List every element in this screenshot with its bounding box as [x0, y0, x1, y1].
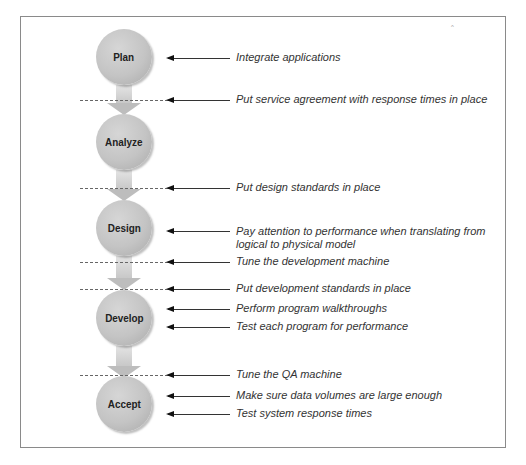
milestone-line — [80, 262, 168, 263]
pointer-arrow-icon — [168, 327, 230, 328]
phase-label: Accept — [107, 398, 140, 410]
pointer-arrow-icon — [168, 414, 230, 415]
pointer-arrow-icon — [168, 231, 230, 232]
annotation-label: Make sure data volumes are large enough — [236, 389, 442, 402]
annotation-label: Put development standards in place — [236, 282, 411, 295]
milestone-line — [80, 100, 168, 101]
pointer-arrow-icon — [168, 58, 230, 59]
phase-accept: Accept — [96, 376, 152, 432]
annotation-label: Put design standards in place — [236, 181, 380, 194]
annotation-label: Perform program walkthroughs — [236, 302, 387, 315]
pointer-arrow-icon — [168, 188, 230, 189]
phase-label: Plan — [114, 51, 135, 63]
pointer-arrow-icon — [168, 309, 230, 310]
flow-arrow-shaft — [116, 346, 132, 366]
phase-analyze: Analyze — [96, 114, 152, 170]
annotation-label: Put service agreement with response time… — [236, 93, 487, 106]
pointer-arrow-icon — [168, 262, 230, 263]
phase-label: Analyze — [105, 136, 142, 148]
phase-label: Develop — [105, 312, 144, 324]
annotation-label: Test system response times — [236, 407, 372, 420]
annotation-label-cont: logical to physical model — [236, 238, 355, 251]
pointer-arrow-icon — [168, 100, 230, 101]
annotation-label: Tune the QA machine — [236, 368, 342, 381]
phase-develop: Develop — [96, 290, 152, 346]
pointer-arrow-icon — [168, 375, 230, 376]
pointer-arrow-icon — [168, 396, 230, 397]
annotation-label: Test each program for performance — [236, 320, 408, 333]
pointer-arrow-icon — [168, 289, 230, 290]
phase-label: Design — [107, 222, 140, 234]
flow-arrow-shaft — [116, 256, 132, 278]
annotation-label: Pay attention to performance when transl… — [236, 225, 485, 238]
milestone-line — [80, 188, 168, 189]
phase-design: Design — [96, 200, 152, 256]
annotation-label: Integrate applications — [236, 51, 341, 64]
corner-mark: ^ — [451, 24, 454, 30]
flow-arrow-shaft — [116, 170, 132, 189]
phase-plan: Plan — [96, 29, 152, 85]
annotation-label: Tune the development machine — [236, 255, 389, 268]
